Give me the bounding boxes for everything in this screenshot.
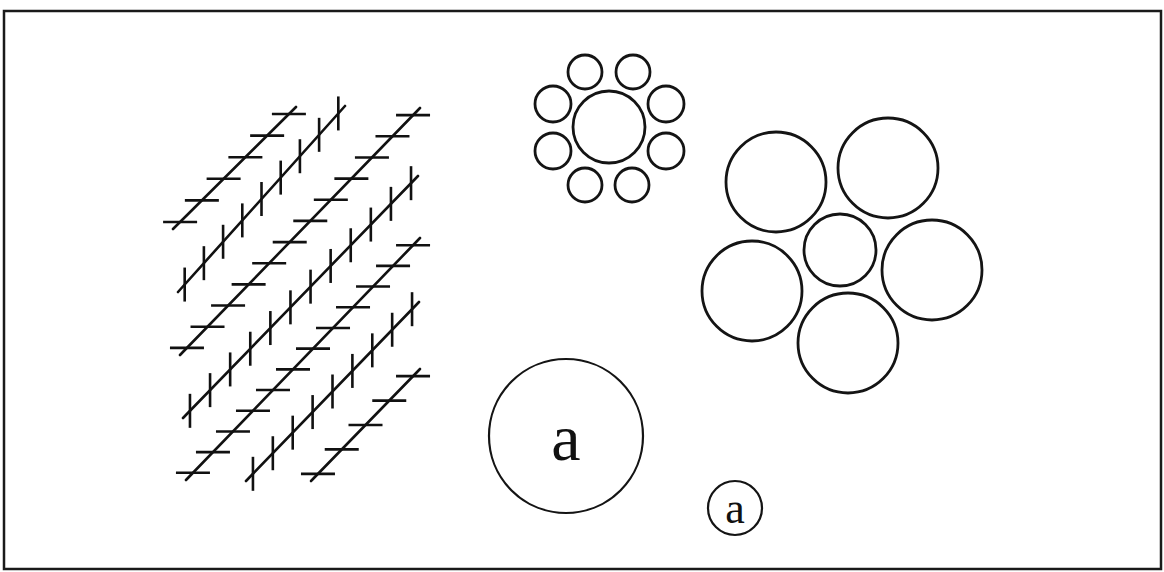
ebbinghaus-small-inducer-circle bbox=[535, 86, 571, 122]
zollner-diagonal-line bbox=[173, 107, 296, 229]
illusions-figure: a a bbox=[0, 0, 1164, 572]
ebbinghaus-large-inducer-circle bbox=[882, 220, 982, 320]
ebbinghaus-large-inducer-circle bbox=[838, 118, 938, 218]
ebbinghaus-small-inducer-circle bbox=[568, 168, 602, 202]
ebbinghaus-large-inducers bbox=[702, 118, 982, 393]
ebbinghaus-large-inducer-circle bbox=[702, 241, 802, 341]
zollner-illusion bbox=[163, 96, 430, 490]
ebbinghaus-small-inducer-circle bbox=[568, 55, 602, 89]
ebbinghaus-center-circle bbox=[804, 214, 876, 286]
zollner-diagonal-line bbox=[186, 238, 420, 480]
figure-frame bbox=[4, 11, 1161, 569]
ebbinghaus-center-circle bbox=[573, 91, 645, 163]
ebbinghaus-small-inducers bbox=[535, 55, 684, 202]
small-letter-a: a bbox=[725, 484, 745, 533]
ebbinghaus-large-inducer-circle bbox=[798, 293, 898, 393]
ebbinghaus-large-inducer-circle bbox=[726, 132, 826, 232]
ebbinghaus-small-inducer-circle bbox=[616, 55, 650, 89]
ebbinghaus-small-inducer-circle bbox=[535, 133, 571, 169]
zollner-diagonal-line bbox=[183, 176, 418, 418]
ebbinghaus-small-inducer-circle bbox=[648, 86, 684, 122]
ebbinghaus-small-inducer-circle bbox=[615, 168, 649, 202]
size-contrast-letters: a a bbox=[489, 359, 762, 535]
large-letter-a: a bbox=[551, 401, 580, 474]
ebbinghaus-small-inducer-circle bbox=[648, 133, 684, 169]
